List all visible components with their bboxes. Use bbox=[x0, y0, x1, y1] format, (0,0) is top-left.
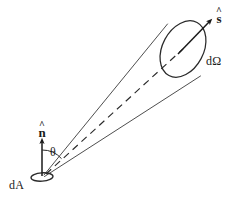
normal-vector-label: ^ n bbox=[35, 121, 49, 138]
cone-edge-upper-line bbox=[44, 24, 168, 175]
angle-label: θ bbox=[50, 146, 56, 158]
solid-angle-label: dΩ bbox=[206, 55, 221, 67]
direction-vector-symbol: s bbox=[212, 13, 226, 24]
area-element-label: dA bbox=[9, 179, 24, 191]
normal-vector-symbol: n bbox=[35, 127, 49, 138]
radiometry-solid-angle-figure: ^ n ^ s θ dA dΩ bbox=[0, 0, 248, 206]
direction-vector-label: ^ s bbox=[212, 7, 226, 24]
figure-canvas bbox=[0, 0, 248, 206]
cone-edge-lower-line bbox=[45, 76, 201, 177]
